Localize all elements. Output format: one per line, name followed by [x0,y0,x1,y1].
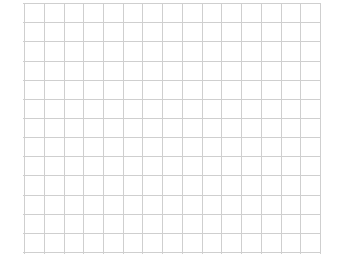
grid-canvas [0,0,341,275]
grid-paper-graphic [0,0,341,275]
